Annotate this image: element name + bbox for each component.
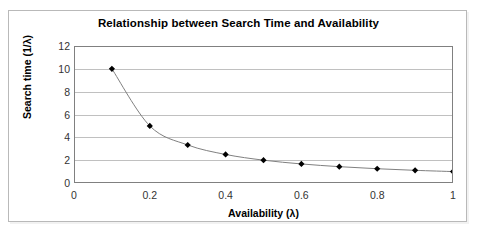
x-axis-tick-label: 0.8: [370, 189, 385, 201]
y-axis-tick-label: 2: [44, 154, 70, 166]
y-axis-tick-label: 6: [44, 109, 70, 121]
chart-frame: Relationship between Search Time and Ava…: [8, 10, 467, 222]
x-axis-tick-label: 0: [71, 189, 77, 201]
x-axis-title: Availability (λ): [74, 207, 453, 219]
x-axis-tick-label: 0.2: [142, 189, 157, 201]
chart-plot-svg: [74, 46, 453, 183]
data-series-line: [112, 69, 453, 172]
y-axis-title: Search time (1/λ): [21, 7, 33, 147]
y-axis-tick-label: 4: [44, 131, 70, 143]
plot-area: [74, 46, 453, 183]
y-axis-tick-label: 10: [44, 63, 70, 75]
y-axis-tick-label: 12: [44, 40, 70, 52]
x-axis-tick-label: 0.6: [294, 189, 309, 201]
data-series-markers: [109, 66, 453, 175]
y-axis-tick-labels: 024681012: [40, 46, 70, 183]
y-axis-tick-label: 8: [44, 86, 70, 98]
chart-title: Relationship between Search Time and Ava…: [9, 17, 468, 29]
y-axis-tick-label: 0: [44, 177, 70, 189]
x-axis-tick-label: 0.4: [218, 189, 233, 201]
x-axis-tick-labels: 00.20.40.60.81: [74, 189, 453, 205]
x-axis-tick-label: 1: [450, 189, 456, 201]
